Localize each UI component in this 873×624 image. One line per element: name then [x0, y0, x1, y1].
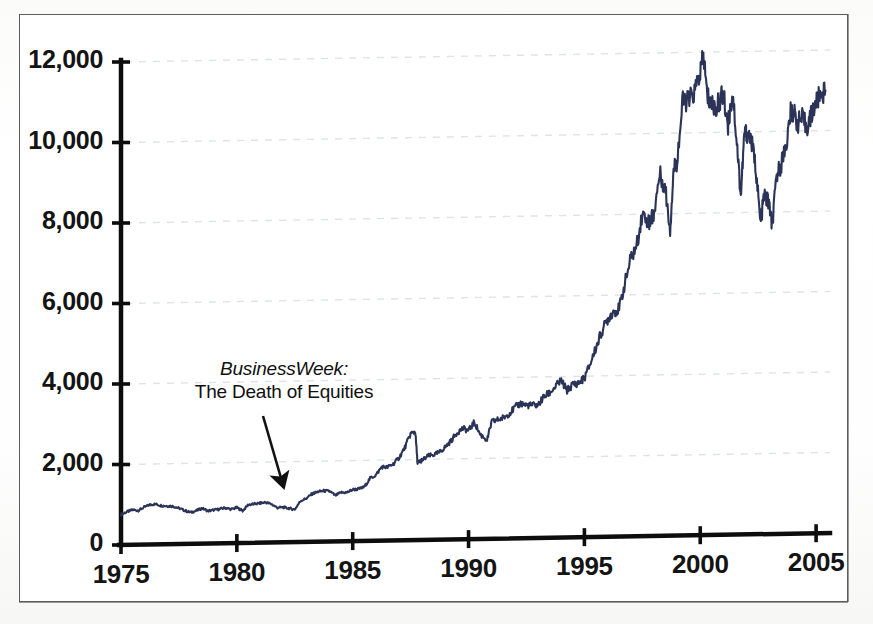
x-tick-label: 2005	[771, 547, 861, 578]
x-tick-label: 1995	[539, 551, 629, 582]
dow-jones-line-chart	[0, 0, 873, 624]
y-tick-label: 0	[89, 528, 103, 557]
y-tick-label: 2,000	[42, 448, 103, 477]
x-tick-label: 1980	[192, 557, 282, 588]
x-tick-label: 1990	[424, 553, 514, 584]
annotation-line-2: The Death of Equities	[186, 380, 382, 403]
y-tick-label: 10,000	[28, 126, 103, 155]
x-tick-label: 1985	[308, 555, 398, 586]
annotation-arrow	[263, 416, 281, 478]
gridline	[125, 453, 830, 465]
y-tick-label: 8,000	[42, 206, 103, 235]
y-tick-label: 12,000	[28, 45, 103, 74]
chart-annotation: BusinessWeek: The Death of Equities	[186, 357, 382, 403]
chart-page: 02,0004,0006,0008,00010,00012,000 197519…	[0, 0, 873, 624]
gridline	[125, 131, 830, 143]
gridline	[125, 50, 830, 62]
x-tick-label: 2000	[655, 549, 745, 580]
x-tick-label: 1975	[76, 559, 166, 590]
x-axis-line	[119, 533, 830, 545]
y-tick-label: 4,000	[42, 367, 103, 396]
dow-jones-series-line	[121, 51, 825, 515]
gridline	[125, 292, 830, 304]
annotation-line-1: BusinessWeek:	[186, 357, 382, 380]
y-tick-label: 6,000	[42, 287, 103, 316]
gridline	[125, 211, 830, 223]
